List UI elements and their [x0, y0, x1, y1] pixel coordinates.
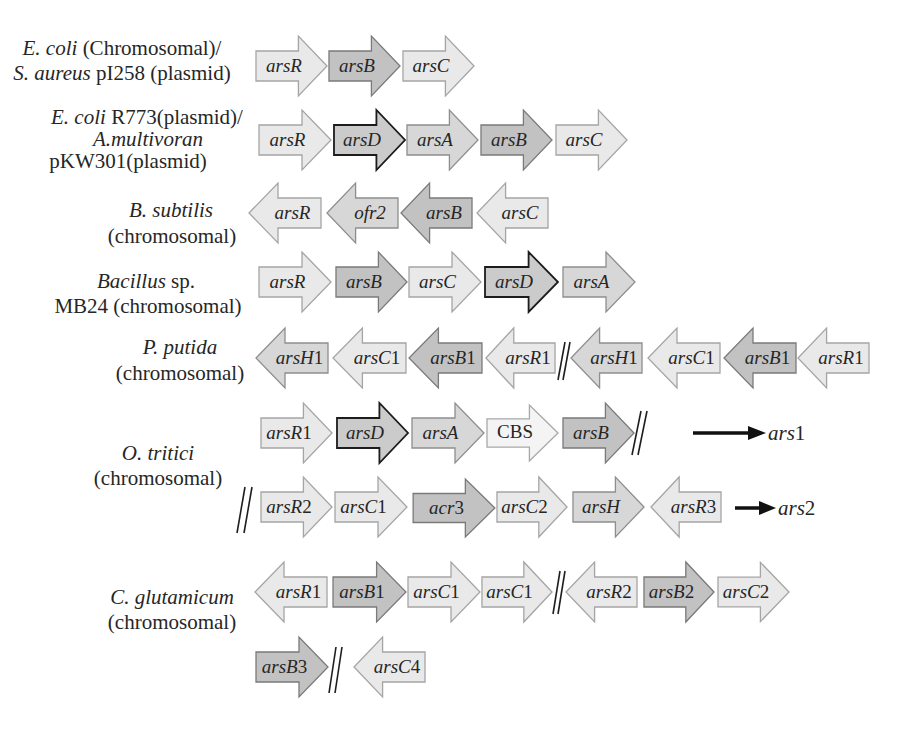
- gene-arrow-arsC1: arsC1: [481, 561, 553, 623]
- gene-label: arsC: [402, 50, 460, 82]
- gene-label: arsC: [408, 266, 467, 298]
- gene-arrow-arsB3: arsB3: [255, 636, 329, 698]
- gene-arrow-arsB: arsB: [480, 109, 553, 171]
- gene-arrow-arsC1: arsC1: [334, 476, 408, 538]
- label-line: pKW301(plasmid): [0, 149, 278, 173]
- gene-label: acr3: [412, 492, 481, 523]
- gene-label: arsR1: [260, 417, 318, 449]
- gene-arrow-arsB2: arsB2: [643, 561, 715, 623]
- gene-label: CBS: [486, 417, 544, 447]
- gene-arrow-arsC1: arsC1: [332, 327, 407, 389]
- sequence-break-icon: [630, 411, 650, 455]
- gene-label: arsB: [335, 266, 393, 298]
- label-line: S. aureus pI258 (plasmid): [0, 61, 272, 85]
- gene-arrow-arsR: arsR: [258, 251, 332, 313]
- cluster-label-ars1: ars1: [768, 421, 805, 445]
- gene-arrow-arsC: arsC: [555, 109, 628, 171]
- label-line: Bacillus sp.: [0, 269, 296, 293]
- gene-arrow-acr3: acr3: [412, 478, 496, 538]
- gene-label: arsC1: [347, 342, 407, 374]
- gene-label: arsH1: [270, 342, 329, 374]
- gene-arrow-arsB: arsB: [400, 182, 473, 244]
- gene-label: arsB: [562, 417, 620, 449]
- species-name: Bacillus: [97, 269, 166, 293]
- gene-arrow-arsH: arsH: [572, 476, 645, 538]
- label-line: E. coli R773(plasmid)/: [0, 105, 297, 129]
- label-text: (Chromosomal)/: [77, 36, 221, 60]
- gene-label: arsR: [258, 124, 317, 156]
- gene-label: arsR1: [500, 342, 556, 374]
- gene-arrow-arsA: arsA: [562, 251, 636, 313]
- label-line: A.multivoran: [0, 127, 298, 151]
- species-name: E. coli: [51, 105, 106, 129]
- gene-label: arsH1: [585, 342, 643, 374]
- gene-label: arsC4: [368, 651, 426, 683]
- gene-arrow-arsR1: arsR1: [254, 561, 328, 623]
- gene-label: arsR1: [269, 576, 328, 608]
- gene-label: arsD: [333, 124, 391, 156]
- gene-label: ofr2: [341, 197, 399, 229]
- gene-label: arsR2: [580, 576, 638, 608]
- gene-label: arsA: [562, 266, 621, 298]
- gene-arrow-CBS: CBS: [486, 404, 559, 462]
- gene-arrow-arsA: arsA: [406, 109, 479, 171]
- gene-arrow-arsR2: arsR2: [565, 561, 638, 623]
- gene-arrow-arsH1: arsH1: [570, 327, 643, 389]
- sequence-break-icon: [327, 647, 344, 693]
- gene-label: arsB3: [255, 651, 314, 683]
- gene-arrow-arsC: arsC: [476, 182, 549, 244]
- gene-arrow-arsC4: arsC4: [353, 636, 426, 698]
- species-name: E. coli: [23, 36, 78, 60]
- gene-arrow-arsR3: arsR3: [650, 476, 722, 538]
- gene-label: arsC2: [717, 576, 775, 608]
- gene-arrow-arsR1: arsR1: [485, 327, 556, 389]
- gene-label: arsD: [336, 417, 394, 449]
- label-text: (chromosomal): [108, 610, 236, 634]
- gene-label: arsC1: [481, 576, 538, 608]
- species-name: S. aureus: [13, 61, 90, 85]
- species-name: C. glutamicum: [110, 585, 234, 609]
- gene-label: arsH: [572, 491, 630, 523]
- gene-label: arsA: [406, 124, 464, 156]
- gene-arrow-arsD: arsD: [484, 251, 559, 313]
- gene-label: arsR: [258, 266, 317, 298]
- gene-label: arsC2: [496, 491, 553, 523]
- gene-label: arsC1: [407, 576, 466, 608]
- species-name: P. putida: [143, 335, 217, 359]
- gene-label: arsC1: [334, 491, 393, 523]
- gene-label: arsA: [411, 417, 470, 449]
- gene-label: arsB1: [738, 342, 797, 374]
- gene-label: arsD: [484, 266, 544, 298]
- gene-label: arsR3: [665, 491, 722, 523]
- label-text: MB24 (chromosomal): [54, 294, 241, 318]
- gene-label: arsC1: [662, 342, 721, 374]
- species-name: B. subtilis: [129, 198, 213, 222]
- gene-label: arsB: [415, 197, 473, 229]
- gene-label: arsR2: [260, 491, 318, 523]
- gene-label: arsB: [480, 124, 538, 156]
- gene-arrow-arsD: arsD: [336, 402, 409, 464]
- gene-arrow-arsB1: arsB1: [332, 561, 407, 623]
- gene-arrow-arsC: arsC: [408, 251, 482, 313]
- label-text: R773(plasmid)/: [106, 105, 243, 129]
- gene-arrow-arsD: arsD: [333, 109, 406, 171]
- gene-label: arsB1: [423, 342, 483, 374]
- gene-label: arsB1: [332, 576, 392, 608]
- gene-label: arsC: [491, 197, 549, 229]
- cluster-label-ars2: ars2: [778, 496, 815, 520]
- gene-label: arsR: [255, 50, 313, 82]
- species-name: A.multivoran: [93, 127, 203, 151]
- gene-label: arsR1: [812, 342, 870, 374]
- gene-arrow-arsH1: arsH1: [255, 327, 329, 389]
- label-text: (chromosomal): [108, 224, 236, 248]
- label-line: MB24 (chromosomal): [0, 294, 298, 318]
- gene-label: arsB: [328, 50, 386, 82]
- label-text: (chromosomal): [94, 466, 222, 490]
- gene-label: arsB2: [643, 576, 700, 608]
- label-text: sp.: [166, 269, 195, 293]
- gene-label: arsC: [555, 124, 613, 156]
- gene-arrow-arsC: arsC: [402, 35, 475, 97]
- sequence-break-icon: [235, 487, 255, 533]
- arrow-right-pointer-icon: [690, 424, 770, 442]
- gene-arrow-ofr2: ofr2: [326, 182, 399, 244]
